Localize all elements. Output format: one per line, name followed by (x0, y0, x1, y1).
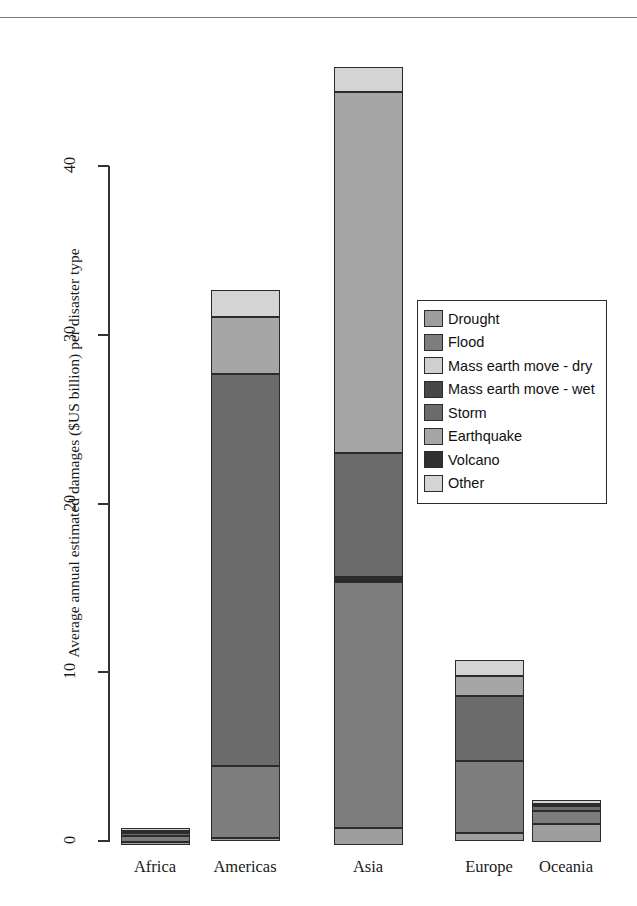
bar-oceania[interactable] (532, 800, 601, 841)
bar-segment[interactable] (211, 317, 280, 374)
y-axis-title: Average annual estimated damages ($US bi… (65, 93, 83, 813)
bar-segment[interactable] (532, 811, 601, 825)
bar-segment[interactable] (211, 766, 280, 839)
legend-item-label: Mass earth move - wet (448, 381, 595, 397)
bar-segment[interactable] (211, 374, 280, 766)
legend-item[interactable]: Other (424, 472, 601, 496)
y-axis-tick-mark (98, 671, 109, 673)
bar-asia[interactable] (334, 67, 403, 841)
legend-swatch-icon (424, 357, 443, 374)
legend-swatch-icon (424, 381, 443, 398)
bar-europe[interactable] (455, 660, 524, 841)
legend-swatch-icon (424, 428, 443, 445)
legend-swatch-icon (424, 475, 443, 492)
bar-segment[interactable] (455, 761, 524, 833)
legend-swatch-icon (424, 404, 443, 421)
bar-segment[interactable] (334, 67, 403, 91)
y-axis-tick-label: 40 (48, 156, 92, 176)
legend-item[interactable]: Drought (424, 307, 601, 331)
y-axis-tick-mark (98, 334, 109, 336)
y-axis-tick-label: 30 (48, 325, 92, 345)
y-axis-tick-label: 10 (48, 662, 92, 682)
y-axis-tick-value: 10 (61, 649, 79, 693)
legend-item-label: Volcano (448, 452, 500, 468)
legend-item-label: Earthquake (448, 428, 522, 444)
legend-item-label: Storm (448, 405, 487, 421)
bar-segment[interactable] (211, 290, 280, 317)
legend-item-label: Mass earth move - dry (448, 358, 592, 374)
bar-segment[interactable] (334, 582, 403, 828)
x-axis-label-asia: Asia (298, 857, 438, 877)
bar-americas[interactable] (211, 290, 280, 841)
bar-segment[interactable] (455, 833, 524, 841)
bar-segment[interactable] (532, 824, 601, 842)
bar-segment[interactable] (455, 660, 524, 675)
bar-segment[interactable] (334, 828, 403, 844)
x-axis-label-americas: Americas (175, 857, 315, 877)
y-axis-tick-label: 20 (48, 494, 92, 514)
bar-segment[interactable] (334, 453, 403, 577)
bar-segment[interactable] (334, 92, 403, 453)
bar-segment[interactable] (455, 696, 524, 761)
legend-item[interactable]: Flood (424, 331, 601, 355)
legend-swatch-icon (424, 334, 443, 351)
chart-legend: DroughtFloodMass earth move - dryMass ea… (417, 300, 607, 504)
y-axis-tick-value: 30 (61, 312, 79, 356)
y-axis-tick-mark (98, 503, 109, 505)
legend-item[interactable]: Volcano (424, 448, 601, 472)
legend-item[interactable]: Mass earth move - dry (424, 354, 601, 378)
bar-africa[interactable] (121, 828, 190, 842)
legend-item[interactable]: Earthquake (424, 425, 601, 449)
stacked-bar-chart: Average annual estimated damages ($US bi… (0, 0, 637, 906)
legend-swatch-icon (424, 310, 443, 327)
y-axis-tick-value: 40 (61, 143, 79, 187)
bar-segment[interactable] (211, 838, 280, 841)
legend-item[interactable]: Mass earth move - wet (424, 378, 601, 402)
y-axis-tick-value: 20 (61, 481, 79, 525)
y-axis-tick-mark (98, 165, 109, 167)
legend-swatch-icon (424, 451, 443, 468)
bar-segment[interactable] (121, 842, 190, 845)
legend-item-label: Flood (448, 334, 484, 350)
y-axis-tick-value: 0 (61, 818, 79, 862)
legend-item-label: Other (448, 475, 484, 491)
legend-item[interactable]: Storm (424, 401, 601, 425)
y-axis-tick-label: 0 (48, 831, 92, 851)
bar-segment[interactable] (455, 676, 524, 696)
y-axis-tick-mark (98, 840, 109, 842)
x-axis-label-oceania: Oceania (496, 857, 636, 877)
legend-item-label: Drought (448, 311, 500, 327)
